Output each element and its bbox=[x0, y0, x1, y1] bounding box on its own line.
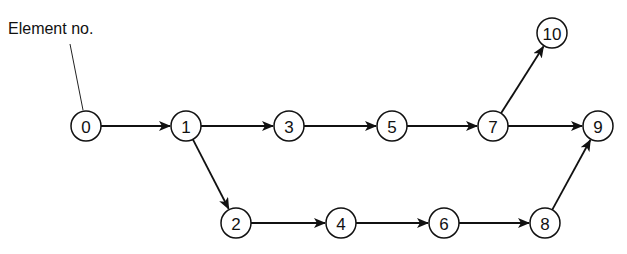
node-3: 3 bbox=[274, 111, 304, 141]
node-label: 3 bbox=[284, 118, 293, 137]
node-label: 2 bbox=[231, 215, 240, 234]
node-label: 9 bbox=[593, 118, 602, 137]
node-label: 5 bbox=[387, 118, 396, 137]
node-8: 8 bbox=[530, 208, 560, 238]
node-0: 0 bbox=[71, 111, 101, 141]
nodes-group: 013579102468 bbox=[71, 18, 613, 238]
node-5: 5 bbox=[377, 111, 407, 141]
node-6: 6 bbox=[429, 208, 459, 238]
node-label: 4 bbox=[336, 215, 345, 234]
node-label: 7 bbox=[488, 118, 497, 137]
node-7: 7 bbox=[478, 111, 508, 141]
node-label: 6 bbox=[439, 215, 448, 234]
node-1: 1 bbox=[171, 111, 201, 141]
edge-7-to-10 bbox=[501, 47, 543, 114]
node-4: 4 bbox=[326, 208, 356, 238]
node-10: 10 bbox=[537, 18, 567, 48]
node-label: 0 bbox=[81, 118, 90, 137]
callout-leader-line bbox=[70, 44, 83, 110]
edge-8-to-9 bbox=[552, 140, 590, 210]
node-2: 2 bbox=[221, 208, 251, 238]
network-diagram: 013579102468 bbox=[0, 0, 627, 254]
node-label: 1 bbox=[181, 118, 190, 137]
node-label: 8 bbox=[540, 215, 549, 234]
node-9: 9 bbox=[583, 111, 613, 141]
node-label: 10 bbox=[543, 25, 562, 44]
edge-1-to-2 bbox=[193, 139, 229, 208]
